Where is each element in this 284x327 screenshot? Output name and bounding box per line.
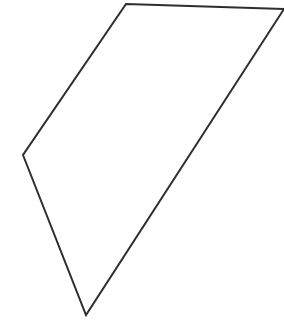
drawing-canvas xyxy=(0,0,284,327)
canvas-background xyxy=(0,0,284,327)
polygon-figure xyxy=(0,0,284,327)
